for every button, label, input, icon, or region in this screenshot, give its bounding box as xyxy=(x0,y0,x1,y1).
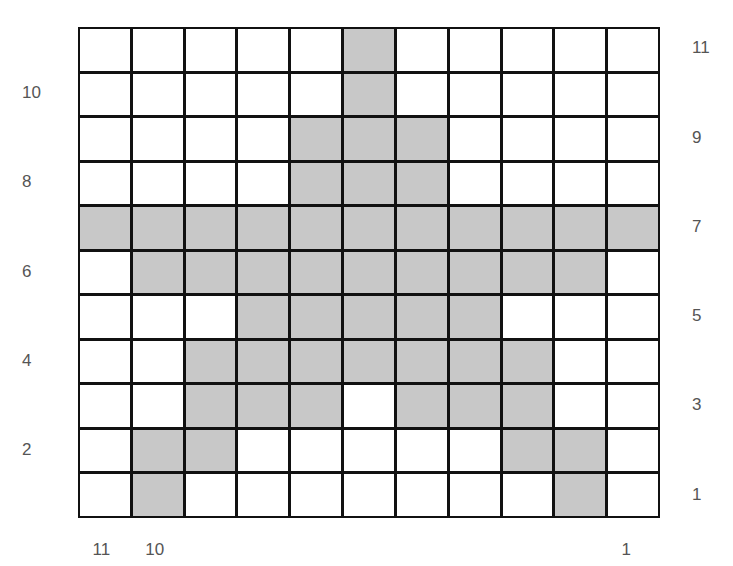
left-row-label: 10 xyxy=(22,83,62,103)
grid-cell-r3-c10 xyxy=(555,385,605,427)
grid-cell-r6-c3 xyxy=(186,252,236,294)
grid-cell-r3-c8 xyxy=(450,385,500,427)
grid-cell-r9-c8 xyxy=(450,118,500,160)
grid-cell-r4-c10 xyxy=(555,341,605,383)
grid-cell-r11-c11 xyxy=(608,29,658,71)
grid-cell-r3-c3 xyxy=(186,385,236,427)
grid-cell-r7-c3 xyxy=(186,207,236,249)
grid-cell-r8-c11 xyxy=(608,163,658,205)
grid-cell-r3-c2 xyxy=(133,385,183,427)
grid-cell-r3-c4 xyxy=(238,385,288,427)
grid-cell-r2-c11 xyxy=(608,430,658,472)
grid-cell-r11-c8 xyxy=(450,29,500,71)
grid-cell-r1-c10 xyxy=(555,474,605,516)
grid-cell-r2-c1 xyxy=(80,430,130,472)
grid-cell-r8-c1 xyxy=(80,163,130,205)
grid-cell-r2-c10 xyxy=(555,430,605,472)
grid-cell-r7-c1 xyxy=(80,207,130,249)
grid-cell-r11-c6 xyxy=(344,29,394,71)
grid-cell-r10-c3 xyxy=(186,74,236,116)
grid-cell-r6-c10 xyxy=(555,252,605,294)
grid-cell-r1-c8 xyxy=(450,474,500,516)
grid-cell-r2-c9 xyxy=(503,430,553,472)
grid-cell-r1-c9 xyxy=(503,474,553,516)
grid-cell-r1-c1 xyxy=(80,474,130,516)
grid-cell-r1-c11 xyxy=(608,474,658,516)
grid-cell-r1-c5 xyxy=(291,474,341,516)
grid-cell-r9-c11 xyxy=(608,118,658,160)
right-row-label: 5 xyxy=(692,306,732,326)
grid-cell-r7-c7 xyxy=(397,207,447,249)
grid-cell-r2-c2 xyxy=(133,430,183,472)
grid-cell-r5-c10 xyxy=(555,296,605,338)
grid-cell-r4-c11 xyxy=(608,341,658,383)
right-row-label: 9 xyxy=(692,128,732,148)
grid-cell-r10-c1 xyxy=(80,74,130,116)
grid-cell-r7-c8 xyxy=(450,207,500,249)
grid-cell-r6-c8 xyxy=(450,252,500,294)
grid-cell-r8-c10 xyxy=(555,163,605,205)
grid-cell-r3-c1 xyxy=(80,385,130,427)
grid-cell-r8-c2 xyxy=(133,163,183,205)
grid-cell-r4-c5 xyxy=(291,341,341,383)
grid-cell-r7-c9 xyxy=(503,207,553,249)
grid-cell-r4-c6 xyxy=(344,341,394,383)
right-row-label: 11 xyxy=(692,38,732,58)
grid-cell-r9-c1 xyxy=(80,118,130,160)
grid-cell-r8-c4 xyxy=(238,163,288,205)
right-row-label: 3 xyxy=(692,395,732,415)
grid-cell-r2-c6 xyxy=(344,430,394,472)
grid-cell-r7-c11 xyxy=(608,207,658,249)
grid-cell-r10-c11 xyxy=(608,74,658,116)
grid-cell-r10-c10 xyxy=(555,74,605,116)
grid-cell-r7-c2 xyxy=(133,207,183,249)
grid-cell-r9-c9 xyxy=(503,118,553,160)
grid-cell-r6-c2 xyxy=(133,252,183,294)
grid-cell-r5-c4 xyxy=(238,296,288,338)
grid-cell-r4-c1 xyxy=(80,341,130,383)
grid-cell-r5-c5 xyxy=(291,296,341,338)
grid-cell-r1-c4 xyxy=(238,474,288,516)
grid-cell-r1-c7 xyxy=(397,474,447,516)
grid-cell-r10-c7 xyxy=(397,74,447,116)
grid-cell-r7-c4 xyxy=(238,207,288,249)
grid-cell-r3-c7 xyxy=(397,385,447,427)
grid-cell-r6-c9 xyxy=(503,252,553,294)
grid-cell-r1-c2 xyxy=(133,474,183,516)
grid-cell-r8-c7 xyxy=(397,163,447,205)
grid-cell-r3-c5 xyxy=(291,385,341,427)
grid-cell-r6-c5 xyxy=(291,252,341,294)
grid-cell-r7-c10 xyxy=(555,207,605,249)
grid-cell-r11-c5 xyxy=(291,29,341,71)
left-row-label: 2 xyxy=(22,440,62,460)
grid-cell-r9-c6 xyxy=(344,118,394,160)
grid-cell-r4-c7 xyxy=(397,341,447,383)
grid-cell-r11-c4 xyxy=(238,29,288,71)
grid-cell-r11-c2 xyxy=(133,29,183,71)
grid-cell-r6-c11 xyxy=(608,252,658,294)
grid-cell-r8-c8 xyxy=(450,163,500,205)
grid-cell-r9-c4 xyxy=(238,118,288,160)
left-row-label: 6 xyxy=(22,262,62,282)
grid-cell-r10-c2 xyxy=(133,74,183,116)
grid-cell-r10-c5 xyxy=(291,74,341,116)
grid-cell-r2-c3 xyxy=(186,430,236,472)
grid-cell-r8-c3 xyxy=(186,163,236,205)
grid-cell-r6-c7 xyxy=(397,252,447,294)
grid-cell-r11-c9 xyxy=(503,29,553,71)
grid-cell-r5-c6 xyxy=(344,296,394,338)
grid-cell-r5-c8 xyxy=(450,296,500,338)
grid-cell-r6-c4 xyxy=(238,252,288,294)
grid-cell-r6-c6 xyxy=(344,252,394,294)
grid-cell-r3-c11 xyxy=(608,385,658,427)
grid-cell-r4-c4 xyxy=(238,341,288,383)
grid-cell-r5-c1 xyxy=(80,296,130,338)
knitting-chart-grid xyxy=(78,27,660,518)
grid-cell-r9-c10 xyxy=(555,118,605,160)
grid-cell-r9-c2 xyxy=(133,118,183,160)
grid-cell-r4-c3 xyxy=(186,341,236,383)
grid-cell-r11-c3 xyxy=(186,29,236,71)
grid-cell-r8-c6 xyxy=(344,163,394,205)
grid-cell-r9-c3 xyxy=(186,118,236,160)
grid-cell-r7-c6 xyxy=(344,207,394,249)
